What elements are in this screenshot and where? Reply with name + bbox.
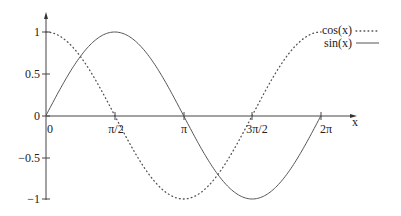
x-tick-label: π bbox=[181, 122, 187, 136]
x-axis-label: x bbox=[352, 115, 358, 129]
legend-label-sin: sin(x) bbox=[324, 36, 352, 50]
x-tick-label: 0 bbox=[47, 122, 53, 136]
y-tick-label: −1 bbox=[27, 192, 40, 206]
chart-canvas: 1 0.5 0 −0.5 −1 0 π/2 π 3π/2 2π x cos(x)… bbox=[0, 0, 401, 216]
legend: cos(x) sin(x) bbox=[322, 23, 379, 50]
y-tick-label: 0.5 bbox=[25, 67, 40, 81]
x-tick-label: 3π/2 bbox=[246, 122, 267, 136]
y-tick-label: −0.5 bbox=[18, 151, 40, 165]
x-tick-label: π/2 bbox=[108, 122, 123, 136]
y-axis-arrow-icon bbox=[44, 12, 48, 19]
x-tick-label: 2π bbox=[320, 122, 332, 136]
y-tick-label: 0 bbox=[34, 109, 40, 123]
legend-label-cos: cos(x) bbox=[322, 23, 352, 37]
y-tick-label: 1 bbox=[34, 25, 40, 39]
